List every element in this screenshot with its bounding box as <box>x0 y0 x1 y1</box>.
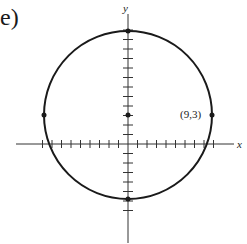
x-axis-label: x <box>236 138 242 150</box>
point-label: (9,3) <box>180 108 201 121</box>
diagram-canvas: x y (9,3) <box>0 0 247 244</box>
panel-label: e) <box>0 4 19 31</box>
point-marker <box>126 197 131 202</box>
y-axis-label: y <box>122 2 128 14</box>
point-marker <box>126 113 131 118</box>
point-marker <box>42 113 47 118</box>
axes: x y <box>16 2 242 243</box>
circle-diagram: e) x y (9,3) <box>0 0 247 244</box>
point-marker <box>126 29 131 34</box>
point-marker <box>210 113 215 118</box>
